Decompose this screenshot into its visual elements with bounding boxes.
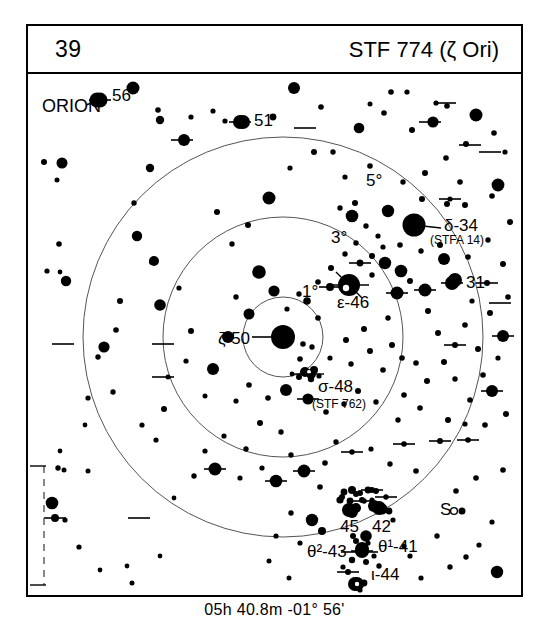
star-dot [463, 141, 469, 147]
star-dot [265, 395, 271, 401]
star-label-51: 51 [254, 111, 273, 130]
star-label-S-double: S [440, 500, 451, 519]
star-dot [389, 342, 395, 348]
star-dot [210, 108, 215, 113]
star-cluster-component [369, 497, 374, 502]
star-dot [375, 233, 380, 238]
star-dot [153, 437, 158, 442]
edge-bracket-group [30, 466, 46, 585]
star-dot [413, 468, 419, 474]
star-dot [139, 422, 144, 427]
star-dot [463, 554, 468, 559]
star-dot [462, 202, 468, 208]
star-dot [395, 265, 408, 278]
star-dot [317, 484, 323, 490]
star-dot [315, 315, 321, 321]
star-dot [214, 209, 220, 215]
star-dot [188, 114, 193, 119]
star-dot [58, 270, 63, 275]
star-dot [452, 376, 457, 381]
star-dot [500, 467, 506, 473]
star-dot [155, 107, 161, 113]
star-dot [435, 330, 441, 336]
star-dot [388, 89, 394, 95]
plate-number: 39 [55, 37, 82, 62]
star-dot [113, 327, 119, 333]
star-label-42: 42 [372, 517, 391, 536]
star-dot [300, 341, 306, 347]
sigma-cluster-component [296, 374, 302, 380]
star-dot [284, 306, 289, 311]
star-dot [244, 309, 255, 320]
iota-cluster-component [357, 587, 362, 592]
star-dot [229, 241, 234, 246]
star-cluster-component [365, 487, 372, 494]
star-dot [146, 164, 154, 172]
star-dot [259, 465, 264, 470]
star-dot [482, 422, 488, 428]
star-dot [333, 439, 338, 444]
star-dot [382, 205, 394, 217]
star-dot [434, 533, 439, 538]
chart-title: STF 774 (ζ Ori) [349, 37, 499, 62]
star-dot [397, 242, 403, 248]
star-dot [267, 559, 272, 564]
star-dot [470, 109, 483, 122]
star-dot [395, 417, 400, 422]
star-cluster-component [386, 508, 393, 515]
star-dot [485, 237, 490, 242]
star-dot [465, 254, 471, 260]
theta-cluster-component [349, 557, 355, 563]
star-label-sigma-48: σ-48 [318, 377, 353, 396]
star-dot [252, 265, 266, 279]
star-dot [413, 360, 419, 366]
star-field-svg: 1°3°5° ORION5651δ-3431ε-46ζ-50σ-484542θ²… [28, 74, 521, 595]
star-dot [425, 308, 431, 314]
labeled-star-51 [236, 115, 250, 129]
star-dot [400, 179, 405, 184]
star-dot [385, 315, 390, 320]
star-dot [444, 201, 450, 207]
star-dot [348, 361, 353, 366]
star-dot [363, 223, 368, 228]
star-dot [56, 241, 62, 247]
star-cluster-component [377, 504, 388, 515]
range-circle-label: 1° [302, 282, 318, 301]
star-dot [183, 358, 188, 363]
star-dot [342, 174, 347, 179]
theta-cluster-component [363, 559, 369, 565]
star-dot [296, 291, 301, 296]
sigma-cluster-component [308, 376, 314, 382]
star-cluster-component [351, 503, 361, 513]
star-dot [222, 118, 227, 123]
star-dot [343, 337, 349, 343]
star-dot [98, 341, 109, 352]
star-label-56: 56 [112, 86, 131, 105]
star-dot [273, 533, 278, 538]
star-dot [202, 448, 207, 453]
star-dot [487, 310, 493, 316]
star-dot [318, 527, 326, 535]
star-dot [57, 158, 68, 169]
star-dot [98, 568, 103, 573]
star-dot [475, 346, 481, 352]
star-dot [309, 344, 314, 349]
star-dot [473, 475, 479, 481]
star-dot [303, 297, 311, 305]
star-dot [233, 294, 238, 299]
star-dot [367, 163, 373, 169]
star-dot [132, 231, 142, 241]
star-dot [480, 372, 486, 378]
star-dot [355, 388, 361, 394]
star-dot [418, 575, 423, 580]
star-dot [379, 257, 391, 269]
star-labels-group: ORION5651δ-3431ε-46ζ-50σ-484542θ²-43θ¹-4… [42, 86, 485, 584]
star-dot [476, 542, 481, 547]
star-dot [354, 123, 365, 134]
star-dot [246, 382, 252, 388]
star-dot [489, 193, 495, 199]
star-dot [306, 514, 318, 526]
star-dot [287, 165, 292, 170]
star-dot [424, 378, 430, 384]
star-field: 1°3°5° ORION5651δ-3431ε-46ζ-50σ-484542θ²… [28, 74, 521, 595]
